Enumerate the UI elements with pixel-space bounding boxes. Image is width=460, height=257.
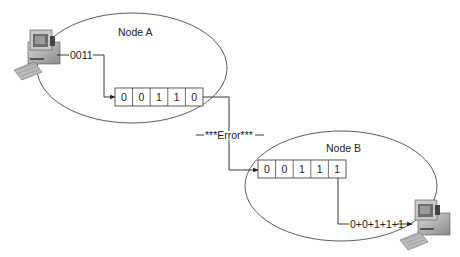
computer-b-icon — [400, 200, 450, 250]
sum-label: 0+0+1+1+1 — [350, 219, 404, 230]
link-line-lower — [229, 140, 258, 170]
frame-b-bit-2: 1 — [293, 164, 311, 175]
error-label: ***Error*** — [205, 130, 253, 141]
frame-a-bit-1: 0 — [133, 92, 151, 103]
node-a-label: Node A — [118, 27, 152, 38]
frame-a-bit-4: 0 — [185, 92, 203, 103]
node-b-label: Node B — [326, 143, 361, 154]
frame-a-bit-3: 1 — [168, 92, 186, 103]
frame-a-bit-2: 1 — [150, 92, 168, 103]
frame-b-bit-3: 1 — [311, 164, 329, 175]
frame-a-bit-0: 0 — [115, 92, 133, 103]
connector-to-frame-a — [93, 55, 115, 97]
sent-bits-label: 0011 — [70, 50, 93, 61]
computer-a-icon — [14, 30, 60, 80]
connector-from-frame-b — [338, 178, 349, 224]
frame-b-bit-4: 1 — [328, 164, 346, 175]
frame-b-bit-1: 0 — [276, 164, 294, 175]
frame-b-bit-0: 0 — [258, 164, 276, 175]
